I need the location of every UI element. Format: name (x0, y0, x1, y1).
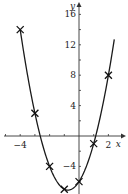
x-axis-label: x (116, 139, 121, 149)
y-tick-label: 8 (70, 70, 76, 80)
plot-area: −42xy161284−4 (0, 0, 128, 194)
tick-marks (6, 14, 109, 194)
cross-marker-icon (46, 163, 53, 170)
x-axis-arrow-icon (121, 134, 126, 139)
x-tick-label: 2 (106, 140, 112, 150)
parabola-graph: −42xy161284−4 (0, 0, 128, 194)
y-tick-label: 4 (70, 101, 76, 111)
y-tick-label: −4 (63, 161, 77, 171)
cross-marker-icon (61, 186, 68, 193)
y-axis-arrow-icon (77, 2, 82, 7)
x-tick-label: −4 (14, 140, 28, 150)
y-tick-label: 12 (65, 40, 76, 50)
y-tick-label: 16 (65, 9, 77, 19)
